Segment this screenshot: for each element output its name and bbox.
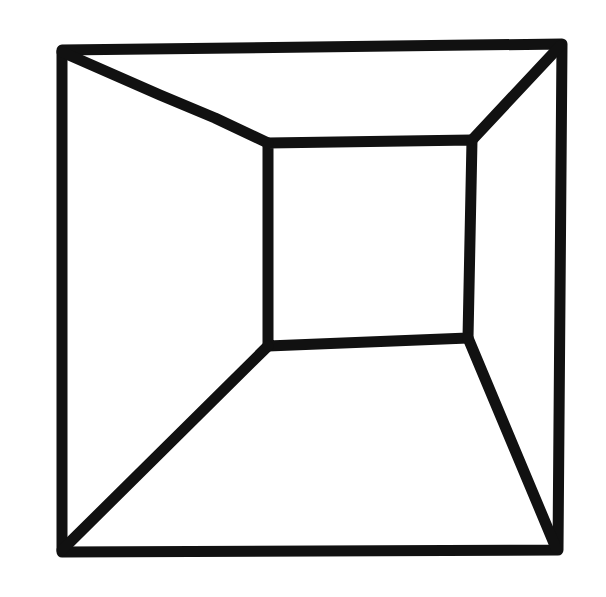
ceiling-left-edge [62,52,268,143]
drawing-svg [0,0,606,597]
floor-left-edge [62,346,268,550]
room-perspective-drawing [0,0,606,597]
inner-back-wall [268,140,472,346]
ceiling-right-edge [472,46,560,140]
floor-right-edge [468,338,556,548]
